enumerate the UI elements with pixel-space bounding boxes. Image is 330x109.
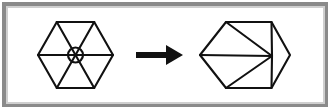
figure-container: Hexagon retriangulation diagram A framed… [0,0,330,109]
arrow-shaft [136,52,168,58]
diagonal-apex-to-left [200,55,272,56]
hexagon-retriangulation-figure [0,0,330,109]
diagonal-apex-to-bottom-right [272,56,273,88]
diagonal-apex-to-top-right [272,22,273,56]
